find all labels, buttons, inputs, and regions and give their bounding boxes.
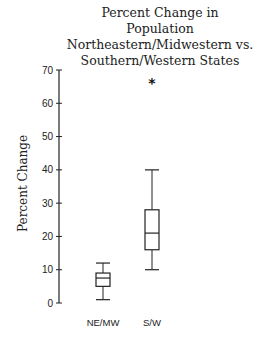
- boxes: *: [96, 75, 159, 299]
- iqr-box: [96, 273, 110, 286]
- y-tick-label: 0: [47, 298, 53, 309]
- y-axis: 010203040506070: [42, 65, 62, 309]
- category-label: NE/MW: [87, 317, 120, 328]
- iqr-box: [145, 210, 159, 250]
- box-sw: *: [145, 75, 159, 269]
- category-label: S/W: [143, 317, 161, 328]
- y-tick-label: 30: [42, 198, 54, 209]
- y-tick-label: 20: [42, 231, 54, 242]
- y-tick-label: 40: [42, 164, 54, 175]
- x-axis-categories: NE/MWS/W: [87, 317, 161, 328]
- y-tick-label: 70: [42, 65, 54, 76]
- y-tick-label: 10: [42, 264, 54, 275]
- y-tick-label: 60: [42, 98, 54, 109]
- box-nemw: [96, 263, 110, 300]
- y-tick-label: 50: [42, 131, 54, 142]
- box-plot: 010203040506070 * NE/MWS/W: [0, 0, 261, 337]
- outlier-marker: *: [148, 75, 156, 91]
